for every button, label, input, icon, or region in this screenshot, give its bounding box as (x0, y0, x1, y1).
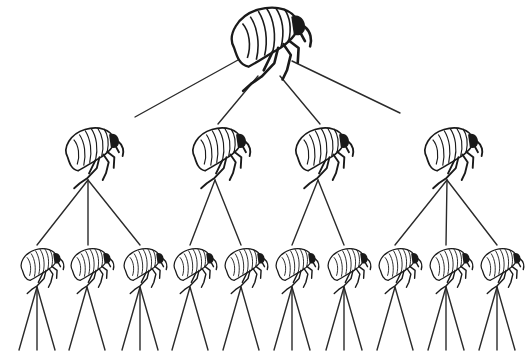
edge-leaf-8-left (377, 287, 395, 350)
flea-icon-level1-1 (63, 124, 127, 188)
edge-leaf-4-left (172, 287, 190, 350)
edge-l1-3-1 (292, 180, 318, 245)
edge-leaf-8-right (395, 287, 413, 350)
edge-leaf-5-left (223, 287, 241, 350)
flea-icon-level2-3 (122, 246, 170, 294)
edge-root-3 (280, 76, 320, 124)
edge-leaf-6-left (274, 287, 292, 350)
edge-leaf-2-right (87, 287, 105, 350)
flea-icon-level1-3 (293, 124, 357, 188)
edge-leaf-6-right (292, 287, 310, 350)
nodes-layer (19, 2, 527, 293)
edge-l1-2-2 (215, 180, 241, 245)
edge-leaf-3-right (140, 287, 158, 350)
edge-l1-1-1 (37, 180, 88, 245)
flea-icon-level1-2 (190, 124, 254, 188)
edge-leaf-9-right (446, 287, 464, 350)
edge-leaf-5-right (241, 287, 259, 350)
flea-icon-level2-8 (377, 246, 425, 294)
flea-icon-level2-9 (428, 246, 476, 294)
edge-leaf-7-right (344, 287, 362, 350)
flea-icon-level1-4 (422, 124, 486, 188)
flea-icon-root (228, 2, 317, 91)
flea-icon-level2-1 (19, 246, 67, 294)
edge-l1-3-2 (318, 180, 344, 245)
edge-leaf-7-left (326, 287, 344, 350)
edge-leaf-10-right (497, 287, 515, 350)
edge-leaf-1-left (19, 287, 37, 350)
flea-icon-level2-6 (274, 246, 322, 294)
edge-leaf-9-left (428, 287, 446, 350)
flea-icon-level2-5 (223, 246, 271, 294)
flea-icon-level2-2 (69, 246, 117, 294)
edge-leaf-1-right (37, 287, 55, 350)
edge-l1-4-3 (447, 180, 497, 245)
flea-icon-level2-10 (479, 246, 527, 294)
edge-l1-4-1 (395, 180, 447, 245)
edge-leaf-2-left (69, 287, 87, 350)
edge-leaf-10-left (479, 287, 497, 350)
flea-icon-level2-7 (326, 246, 374, 294)
edge-leaf-3-left (122, 287, 140, 350)
flea-tree-diagram (0, 0, 528, 363)
edge-root-1 (135, 60, 238, 117)
edge-l1-4-2 (446, 180, 447, 245)
flea-icon-level2-4 (172, 246, 220, 294)
edges-layer (19, 60, 515, 350)
edge-l1-2-1 (190, 180, 215, 245)
edge-root-4 (292, 61, 400, 113)
edge-l1-1-3 (88, 180, 140, 245)
edge-leaf-4-right (190, 287, 208, 350)
